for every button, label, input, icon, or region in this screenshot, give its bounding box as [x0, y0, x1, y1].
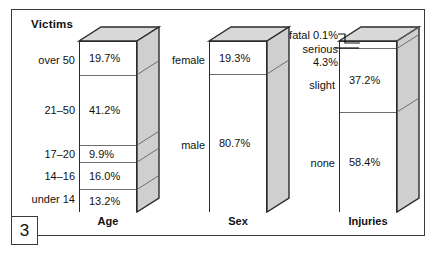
sex-segment-female: 19.3% [210, 42, 266, 75]
injuries-callout-serious-line1: serious [303, 43, 338, 55]
injuries-segment-value: 58.4% [340, 157, 380, 168]
age-label-21-50: 21–50 [20, 104, 75, 116]
injuries-bar-front-face: 37.2% 58.4% [339, 41, 397, 212]
age-segment-value: 16.0% [80, 171, 120, 182]
age-segment-value: 13.2% [80, 196, 120, 207]
injuries-callout-serious: serious 4.3% [275, 43, 338, 68]
age-segment-value: 9.9% [80, 149, 114, 160]
sex-bar-front-face: 19.3% 80.7% [209, 41, 267, 212]
age-bar-front-face: 19.7% 41.2% 9.9% 16.0% 13.2% [79, 41, 137, 212]
sex-segment-value: 19.3% [210, 53, 250, 64]
age-label-over-50: over 50 [20, 54, 75, 66]
sex-segment-value: 80.7% [210, 138, 250, 149]
age-label-14-16: 14–16 [20, 170, 75, 182]
injuries-segment-value: 37.2% [340, 75, 380, 86]
age-label-17-20: 17–20 [20, 148, 75, 160]
age-label-under-14: under 14 [14, 193, 75, 205]
bar-column-age: 19.7% 41.2% 9.9% 16.0% 13.2% [79, 27, 161, 217]
injuries-segment-slight: 37.2% [340, 50, 396, 114]
injuries-segment-none: 58.4% [340, 113, 396, 213]
sex-segment-male: 80.7% [210, 75, 266, 213]
age-segment-under-14: 13.2% [80, 191, 136, 214]
age-segment-value: 19.7% [80, 53, 120, 64]
chart-title: Victims [31, 18, 73, 30]
age-segment-17-20: 9.9% [80, 146, 136, 163]
injuries-serious-leader-line [335, 42, 361, 56]
injuries-callout-fatal: fatal 0.1% [275, 29, 338, 42]
age-segment-14-16: 16.0% [80, 163, 136, 190]
age-segment-value: 41.2% [80, 105, 120, 116]
injuries-callout-serious-line2: 4.3% [313, 56, 338, 68]
age-segment-over-50: 19.7% [80, 42, 136, 76]
figure-number-badge: 3 [11, 216, 38, 245]
age-segment-21-50: 41.2% [80, 76, 136, 147]
